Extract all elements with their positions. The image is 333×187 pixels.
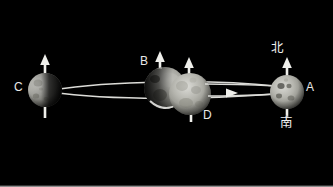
label-south-direction: 南 bbox=[280, 117, 293, 130]
orbit-diagram bbox=[0, 0, 333, 187]
orbit-path-foreground bbox=[205, 84, 276, 98]
image-bottom-edge bbox=[0, 185, 333, 187]
label-position-b: B bbox=[140, 55, 148, 67]
label-position-a: A bbox=[306, 81, 314, 93]
north-axis-arrow-icon-a bbox=[282, 57, 292, 76]
moon-c-group bbox=[28, 54, 62, 118]
north-axis-arrow-icon-c bbox=[40, 54, 50, 76]
label-position-c: C bbox=[14, 81, 23, 93]
diagram-canvas: C A B D 北 南 bbox=[0, 0, 333, 187]
label-north-direction: 北 bbox=[271, 42, 284, 55]
label-position-d: D bbox=[203, 109, 212, 121]
moon-a-group bbox=[270, 57, 304, 118]
